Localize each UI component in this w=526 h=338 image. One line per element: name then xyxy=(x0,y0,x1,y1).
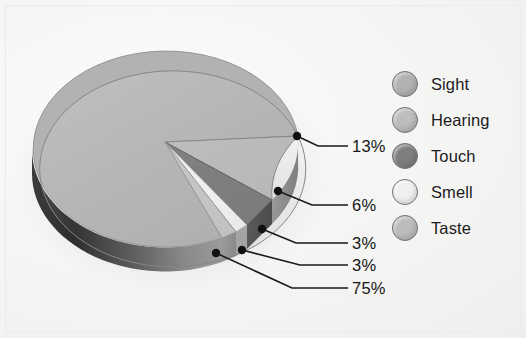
circle-swatch-icon xyxy=(392,179,418,205)
circle-swatch-icon xyxy=(392,215,418,241)
legend-item-smell[interactable]: Smell xyxy=(392,174,522,210)
callout-label-sight: 75% xyxy=(352,279,386,298)
dot-sight xyxy=(212,249,220,257)
chart-page: 13% 6% 3% 3% 75% Sight Hearing Touch Sme… xyxy=(0,0,526,338)
legend-label-hearing: Hearing xyxy=(431,111,489,130)
callout-label-hearing: 13% xyxy=(352,137,386,156)
dot-hearing xyxy=(293,132,301,140)
dot-smell xyxy=(258,225,266,233)
pie-top-outline xyxy=(40,71,306,267)
callout-label-smell: 3% xyxy=(352,234,376,253)
legend-label-touch: Touch xyxy=(431,147,476,166)
legend-item-touch[interactable]: Touch xyxy=(392,138,522,174)
legend-label-taste: Taste xyxy=(431,219,471,238)
circle-swatch-icon xyxy=(392,107,418,133)
circle-swatch-icon xyxy=(392,71,418,97)
chart-legend: Sight Hearing Touch Smell Taste xyxy=(392,66,522,246)
callout-label-taste: 3% xyxy=(352,256,376,275)
callout-label-touch: 6% xyxy=(352,196,376,215)
legend-item-sight[interactable]: Sight xyxy=(392,66,522,102)
dot-touch xyxy=(274,187,282,195)
circle-swatch-icon xyxy=(392,143,418,169)
legend-label-smell: Smell xyxy=(431,183,473,202)
pie-top-faces xyxy=(33,51,306,267)
legend-item-hearing[interactable]: Hearing xyxy=(392,102,522,138)
dot-taste xyxy=(238,246,246,254)
legend-item-taste[interactable]: Taste xyxy=(392,210,522,246)
legend-label-sight: Sight xyxy=(431,75,469,94)
